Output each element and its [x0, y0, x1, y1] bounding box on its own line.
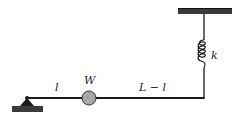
- pin-joint: [25, 96, 29, 100]
- spring-mass-bar-diagram: k l W L − l: [0, 0, 241, 120]
- mass-weight-label: W: [84, 74, 97, 87]
- spring-constant-label: k: [211, 49, 218, 62]
- spring-coil: [198, 40, 205, 68]
- point-mass: [82, 91, 96, 105]
- right-length-label: L − l: [138, 81, 167, 94]
- left-length-label: l: [55, 81, 59, 94]
- ground-support: [12, 106, 43, 112]
